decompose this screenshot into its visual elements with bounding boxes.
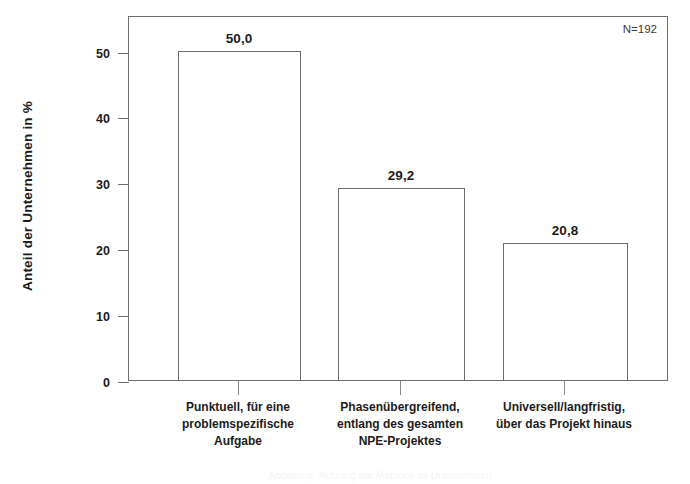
bar-chart: Anteil der Unternehmen in % N=192 010203… <box>0 0 690 484</box>
cut-off-caption: Abbildung: Nutzung der Methode im Untern… <box>170 470 590 483</box>
y-tick-40: 40 <box>118 118 129 119</box>
x-tick-3 <box>564 381 565 395</box>
x-category-label-1: Punktuell, für eineproblemspezifischeAuf… <box>153 399 323 450</box>
x-category-label-3: Universell/langfristig,über das Projekt … <box>479 399 649 433</box>
bar-1: 50,0 <box>178 51 301 380</box>
x-tick-1 <box>238 381 239 395</box>
x-category-label-3-line-2: über das Projekt hinaus <box>479 416 649 433</box>
x-category-label-2-line-1: Phasenübergreifend, <box>315 399 485 416</box>
x-category-label-1-line-1: Punktuell, für eine <box>153 399 323 416</box>
x-category-label-3-line-1: Universell/langfristig, <box>479 399 649 416</box>
x-category-label-1-line-2: problemspezifische <box>153 416 323 433</box>
y-tick-10: 10 <box>118 316 129 317</box>
x-category-label-1-line-3: Aufgabe <box>153 433 323 450</box>
y-tick-0: 0 <box>118 382 129 383</box>
x-tick-2 <box>400 381 401 395</box>
y-tick-label-30: 30 <box>96 178 110 192</box>
y-tick-label-40: 40 <box>96 112 110 126</box>
bar-2: 29,2 <box>338 188 465 380</box>
bar-value-label-1: 50,0 <box>226 31 252 46</box>
y-tick-label-50: 50 <box>96 47 110 61</box>
y-axis-title: Anteil der Unternehmen in % <box>14 26 42 366</box>
y-tick-30: 30 <box>118 184 129 185</box>
y-tick-20: 20 <box>118 250 129 251</box>
sample-size-annotation: N=192 <box>623 23 657 35</box>
y-tick-label-10: 10 <box>96 310 110 324</box>
y-tick-label-0: 0 <box>103 376 110 390</box>
bar-3: 20,8 <box>503 243 628 380</box>
bar-value-label-3: 20,8 <box>552 223 578 238</box>
x-category-label-2-line-3: NPE-Projektes <box>315 433 485 450</box>
x-category-label-2-line-2: entlang des gesamten <box>315 416 485 433</box>
y-tick-50: 50 <box>118 53 129 54</box>
y-tick-label-20: 20 <box>96 244 110 258</box>
x-category-label-2: Phasenübergreifend,entlang des gesamtenN… <box>315 399 485 450</box>
plot-area: N=192 01020304050 50,029,220,8 <box>128 16 668 381</box>
bar-value-label-2: 29,2 <box>388 168 414 183</box>
